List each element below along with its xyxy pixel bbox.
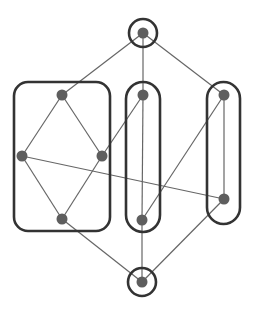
edges-layer <box>22 33 224 282</box>
edge-a1-a2 <box>22 95 62 156</box>
groups-layer <box>14 19 240 296</box>
node-c2 <box>219 194 230 205</box>
hasse-diagram <box>0 0 262 318</box>
edge-a2-c2 <box>22 156 224 199</box>
group-left-box <box>14 82 110 231</box>
node-a3 <box>97 151 108 162</box>
edge-a3-b1 <box>102 95 143 156</box>
node-top <box>138 28 149 39</box>
nodes-layer <box>17 28 230 288</box>
edge-c1-b2 <box>142 95 224 220</box>
node-a1 <box>57 90 68 101</box>
node-bottom <box>137 277 148 288</box>
edge-a2-a4 <box>22 156 62 219</box>
node-b1 <box>138 90 149 101</box>
edge-a1-a3 <box>62 95 102 156</box>
node-a2 <box>17 151 28 162</box>
node-a4 <box>57 214 68 225</box>
edge-c2-bottom <box>142 199 224 282</box>
edge-b1-b2 <box>142 95 143 220</box>
node-b2 <box>137 215 148 226</box>
node-c1 <box>219 90 230 101</box>
